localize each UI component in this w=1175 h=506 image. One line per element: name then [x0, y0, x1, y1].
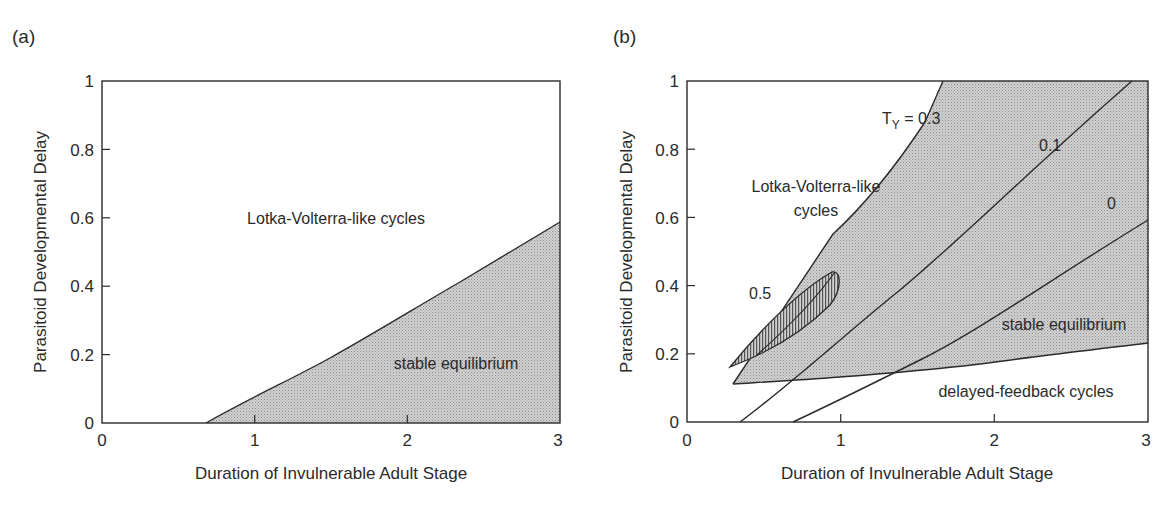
y-tick-label: 0.2	[70, 346, 94, 365]
y-tick-label: 1	[85, 72, 94, 91]
x-tick-label: 2	[990, 431, 999, 450]
x-tick-label: 2	[403, 431, 412, 450]
annotation-ty-0: 0	[1107, 195, 1116, 212]
region-label-cycles-b-line1: Lotka-Volterra-like	[752, 178, 881, 195]
region-label-stable-b: stable equilibrium	[1002, 316, 1127, 333]
x-tick-label: 0	[682, 431, 691, 450]
annotation-ty-0.5: 0.5	[749, 285, 771, 302]
x-tick-label: 3	[553, 431, 562, 450]
region-label-cycles-a: Lotka-Volterra-like cycles	[247, 210, 425, 227]
y-tick-label: 0.6	[655, 209, 679, 228]
panel-a-label: (a)	[12, 26, 35, 47]
y-axis-label-b: Parasitoid Developmental Delay	[617, 131, 636, 373]
x-tick-label: 0	[97, 431, 106, 450]
y-tick-label: 0.8	[70, 141, 94, 160]
y-ticks-b	[687, 149, 695, 354]
region-label-stable-a: stable equilibrium	[394, 355, 519, 372]
y-ticks-a	[102, 149, 110, 354]
y-tick-label: 0.4	[70, 277, 94, 296]
panel-a: (a) 0 0.2 0.4 0.6 0.8 1 0 1 2 3 D	[12, 26, 563, 483]
y-tick-label: 0.8	[655, 141, 679, 160]
y-tick-label: 1	[670, 72, 679, 91]
y-tick-label: 0.6	[70, 209, 94, 228]
y-tick-label: 0.2	[655, 345, 679, 364]
region-label-delayed-b: delayed-feedback cycles	[938, 383, 1113, 400]
panel-b: (b) 0 0.2 0.4 0.6 0	[613, 26, 1151, 483]
figure: (a) 0 0.2 0.4 0.6 0.8 1 0 1 2 3 D	[0, 0, 1175, 506]
y-tick-label: 0	[85, 414, 94, 433]
y-tick-label: 0.4	[655, 277, 679, 296]
x-axis-label-a: Duration of Invulnerable Adult Stage	[195, 464, 467, 483]
y-tick-label: 0	[670, 413, 679, 432]
x-tick-label: 1	[250, 431, 259, 450]
x-tick-label: 3	[1141, 431, 1150, 450]
region-label-cycles-b-line2: cycles	[794, 202, 838, 219]
stable-region-a	[206, 222, 560, 423]
annotation-ty-0.1: 0.1	[1039, 137, 1061, 154]
x-tick-label: 1	[836, 431, 845, 450]
x-ticks-b	[841, 414, 995, 422]
panel-b-label: (b)	[613, 26, 636, 47]
x-axis-label-b: Duration of Invulnerable Adult Stage	[781, 464, 1053, 483]
y-axis-label-a: Parasitoid Developmental Delay	[31, 131, 50, 373]
stable-region-b	[733, 81, 1148, 384]
